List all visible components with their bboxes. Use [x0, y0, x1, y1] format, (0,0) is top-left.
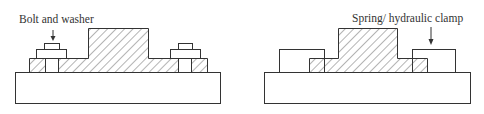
bolt-and-washer-label: Bolt and washer	[19, 13, 94, 25]
clamping-diagram-figure: Bolt and washer Spring/ hydraulic clamp	[0, 0, 484, 114]
right-base-plate	[265, 73, 471, 104]
left-bolt-head	[45, 44, 60, 50]
left-washer	[37, 50, 67, 59]
arrow-down-icon	[51, 30, 56, 41]
left-base-plate	[16, 73, 221, 104]
right-bolt-head	[179, 44, 193, 50]
arrow-down-icon	[429, 27, 434, 45]
left-diagram	[16, 29, 221, 104]
diagram-svg: Bolt and washer Spring/ hydraulic clamp	[0, 0, 484, 114]
right-workpiece	[310, 29, 428, 73]
right-washer	[171, 50, 201, 59]
spring-hydraulic-clamp-label: Spring/ hydraulic clamp	[352, 12, 463, 25]
right-bolt-shaft	[179, 59, 192, 73]
right-diagram	[265, 27, 471, 104]
left-bolt-shaft	[46, 59, 59, 73]
